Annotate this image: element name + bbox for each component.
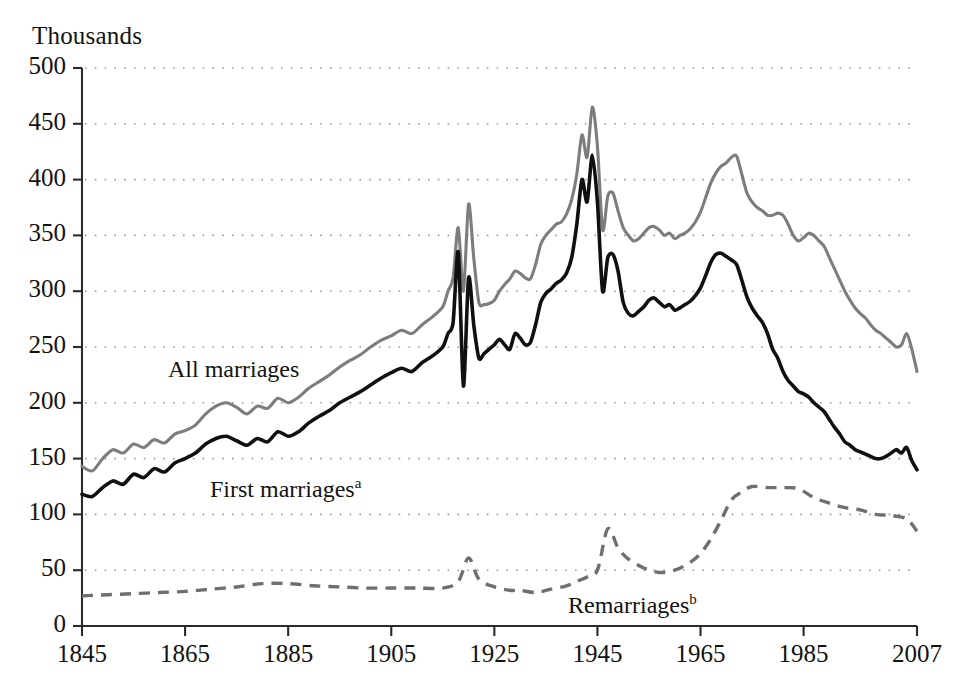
y-tick-label-100: 100 [0, 498, 66, 526]
annotation-text: First marriages [210, 476, 355, 502]
y-tick-label-450: 450 [0, 108, 66, 136]
y-tick-label-250: 250 [0, 331, 66, 359]
x-tick-label-1965: 1965 [651, 640, 751, 668]
x-tick-label-1945: 1945 [547, 640, 647, 668]
annotation-first-marriages: First marriagesa [210, 475, 361, 503]
series-line-remarriages [82, 486, 917, 596]
series-line-all-marriages [82, 107, 917, 471]
chart-container: Thousands 050100150200250300350400450500… [0, 0, 968, 696]
y-tick-label-300: 300 [0, 275, 66, 303]
annotation-remarriages: Remarriagesb [568, 591, 697, 619]
x-tick-label-1905: 1905 [341, 640, 441, 668]
series-line-first-marriages [82, 155, 917, 497]
y-tick-label-350: 350 [0, 219, 66, 247]
y-tick-label-50: 50 [0, 554, 66, 582]
y-tick-label-500: 500 [0, 52, 66, 80]
y-tick-label-0: 0 [0, 610, 66, 638]
annotation-text: Remarriages [568, 592, 689, 618]
annotation-footnote-marker: b [689, 591, 697, 607]
x-tick-label-1885: 1885 [238, 640, 338, 668]
y-tick-label-400: 400 [0, 164, 66, 192]
axes-group [73, 68, 917, 636]
y-tick-label-150: 150 [0, 443, 66, 471]
annotation-footnote-marker: a [355, 475, 362, 491]
y-tick-label-200: 200 [0, 387, 66, 415]
annotation-all-marriages: All marriages [168, 356, 299, 383]
x-tick-label-2007: 2007 [867, 640, 967, 668]
annotation-text: All marriages [168, 356, 299, 382]
x-tick-label-1925: 1925 [444, 640, 544, 668]
x-tick-label-1985: 1985 [754, 640, 854, 668]
chart-plot-svg [0, 0, 968, 696]
x-tick-label-1845: 1845 [32, 640, 132, 668]
x-tick-label-1865: 1865 [135, 640, 235, 668]
